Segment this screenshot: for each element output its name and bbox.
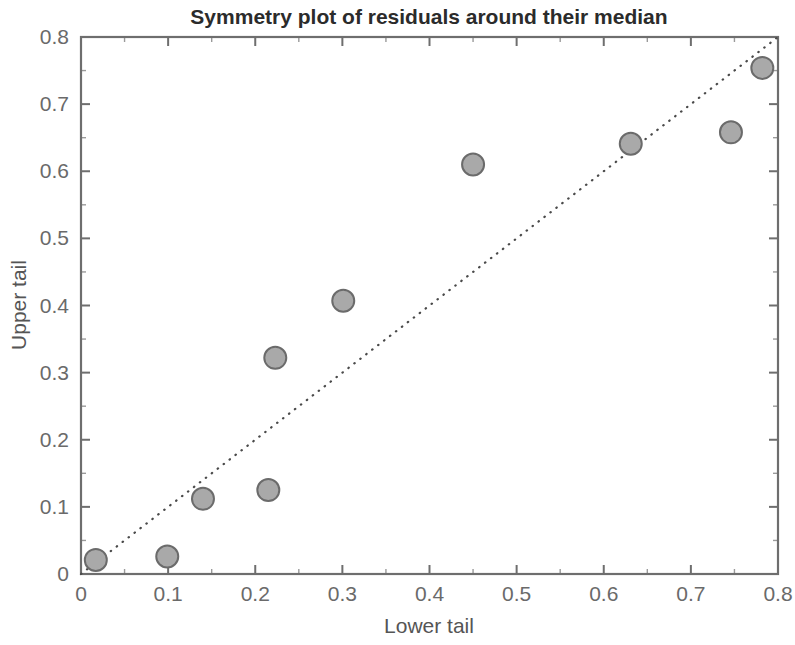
x-tick-label: 0 bbox=[75, 582, 87, 605]
y-axis-label: Upper tail bbox=[7, 260, 30, 350]
scatter-point bbox=[85, 549, 107, 571]
y-tick-label: 0.5 bbox=[40, 226, 69, 249]
chart-background bbox=[0, 0, 795, 645]
x-tick-label: 0.3 bbox=[328, 582, 357, 605]
x-axis-label: Lower tail bbox=[384, 614, 474, 637]
chart-figure: Symmetry plot of residuals around their … bbox=[0, 0, 795, 645]
scatter-point bbox=[332, 290, 354, 312]
x-tick-label: 0.2 bbox=[241, 582, 270, 605]
y-tick-label: 0.7 bbox=[40, 92, 69, 115]
y-tick-label: 0.2 bbox=[40, 428, 69, 451]
scatter-point bbox=[462, 154, 484, 176]
symmetry-scatter-plot: Symmetry plot of residuals around their … bbox=[0, 0, 795, 645]
scatter-point bbox=[264, 347, 286, 369]
y-tick-label: 0.4 bbox=[40, 294, 70, 317]
y-tick-label: 0.6 bbox=[40, 159, 69, 182]
scatter-point bbox=[257, 479, 279, 501]
scatter-point bbox=[156, 546, 178, 568]
chart-title: Symmetry plot of residuals around their … bbox=[190, 5, 667, 28]
y-tick-label: 0 bbox=[57, 562, 69, 585]
x-tick-label: 0.7 bbox=[676, 582, 705, 605]
scatter-point bbox=[192, 488, 214, 510]
scatter-point bbox=[751, 57, 773, 79]
x-tick-label: 0.5 bbox=[502, 582, 531, 605]
x-tick-label: 0.6 bbox=[589, 582, 618, 605]
y-axis-tick-labels: 00.10.20.30.40.50.60.70.8 bbox=[40, 25, 70, 585]
y-tick-label: 0.3 bbox=[40, 361, 69, 384]
x-tick-label: 0.4 bbox=[415, 582, 445, 605]
scatter-point bbox=[720, 121, 742, 143]
scatter-point bbox=[620, 133, 642, 155]
y-tick-label: 0.8 bbox=[40, 25, 69, 48]
x-tick-label: 0.8 bbox=[763, 582, 792, 605]
y-tick-label: 0.1 bbox=[40, 495, 69, 518]
x-tick-label: 0.1 bbox=[154, 582, 183, 605]
